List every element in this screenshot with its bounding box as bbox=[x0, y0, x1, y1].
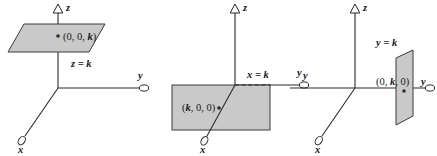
panel-x-equals-k: (k, 0, 0) x = k z y x bbox=[172, 2, 309, 155]
point-marker-0-k-0 bbox=[402, 89, 406, 93]
z-axis-label-panel2: z bbox=[242, 2, 248, 13]
plane-equation-label-x-equals-k: x = k bbox=[246, 69, 269, 80]
panel-y-equals-k: (0, k, 0) y = k z y y x bbox=[290, 2, 435, 155]
x-axis-label-panel1: x bbox=[17, 144, 23, 155]
z-axis-arrowhead-icon bbox=[230, 4, 240, 13]
z-axis-panel3 bbox=[350, 4, 360, 88]
plane-equation-label-z-equals-k: z = k bbox=[70, 58, 92, 69]
z-axis-label-panel3: z bbox=[362, 2, 368, 13]
point-marker-k-0-0 bbox=[217, 106, 221, 110]
y-axis-label-panel1: y bbox=[136, 70, 143, 81]
x-axis-label-panel3: x bbox=[314, 144, 320, 155]
coordinate-planes-figure: (0, 0, k) z = k z y x (k, 0, bbox=[0, 0, 437, 156]
point-marker-0-0-k bbox=[56, 34, 60, 38]
point-label-0-0-k: (0, 0, k) bbox=[63, 31, 97, 43]
panel-z-equals-k: (0, 0, k) z = k z y x bbox=[8, 2, 149, 155]
z-axis-arrowhead-icon bbox=[53, 4, 63, 13]
y-axis-arrowhead-icon bbox=[425, 85, 434, 91]
x-axis-label-panel2: x bbox=[199, 144, 205, 155]
plane-y-equals-k bbox=[396, 50, 413, 125]
z-axis-label-panel1: z bbox=[65, 2, 71, 13]
y-axis-label-panel2: y bbox=[295, 67, 302, 78]
plane-equation-label-y-equals-k: y = k bbox=[374, 37, 398, 48]
z-axis-arrowhead-icon bbox=[350, 4, 360, 13]
y-axis-arrowhead-icon bbox=[139, 85, 148, 91]
y-axis-label-panel3-left: y bbox=[301, 70, 308, 81]
x-axis-panel1 bbox=[17, 88, 58, 146]
y-axis-arrowhead-icon bbox=[299, 82, 308, 88]
y-axis-panel1 bbox=[58, 85, 149, 91]
point-label-0-k-0: (0, k, 0) bbox=[376, 76, 410, 88]
point-label-k-0-0: (k, 0, 0) bbox=[182, 102, 216, 114]
z-axis-panel2 bbox=[230, 4, 240, 85]
x-axis-panel3 bbox=[314, 88, 355, 146]
y-axis-label-panel3-right: y bbox=[419, 76, 426, 87]
